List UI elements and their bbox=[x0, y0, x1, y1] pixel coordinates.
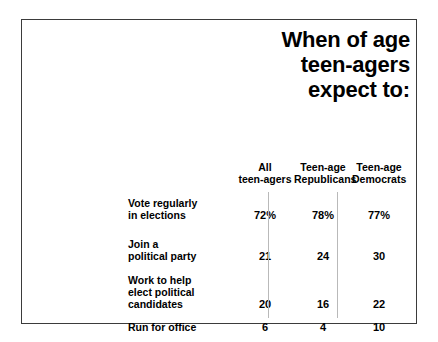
page-title: When of age teen-agers expect to: bbox=[198, 28, 410, 103]
row-value-teenage-republicans: 16 bbox=[294, 264, 352, 312]
column-header-teenage-democrats: Teen-age Democrats bbox=[352, 161, 406, 185]
row-value-teenage-republicans: 24 bbox=[294, 223, 352, 264]
row-value-teenage-democrats: 22 bbox=[352, 264, 406, 312]
row-value-teenage-democrats: 10 bbox=[352, 312, 406, 335]
row-label: Run for office bbox=[124, 312, 236, 335]
row-value-all-teenagers: 6 bbox=[236, 312, 294, 335]
row-value-teenage-democrats: 30 bbox=[352, 223, 406, 264]
column-divider-1 bbox=[268, 192, 269, 318]
table-row: Vote regularly in elections 72% 78% 77% bbox=[124, 185, 406, 223]
table-row: Run for office 6 4 10 bbox=[124, 312, 406, 335]
row-label: Join a political party bbox=[124, 223, 236, 264]
row-value-all-teenagers: 72% bbox=[236, 185, 294, 223]
row-label: Vote regularly in elections bbox=[124, 185, 236, 223]
infographic: When of age teen-agers expect to: All te… bbox=[0, 0, 438, 342]
table-header-row: All teen-agers Teen-age Republicans Teen… bbox=[124, 161, 406, 185]
table-header: All teen-agers Teen-age Republicans Teen… bbox=[124, 161, 406, 185]
row-value-all-teenagers: 21 bbox=[236, 223, 294, 264]
table-row: Work to help elect political candidates … bbox=[124, 264, 406, 312]
column-divider-2 bbox=[337, 192, 338, 318]
column-header-all-teenagers: All teen-agers bbox=[236, 161, 294, 185]
table-body: Vote regularly in elections 72% 78% 77% … bbox=[124, 185, 406, 335]
row-label: Work to help elect political candidates bbox=[124, 264, 236, 312]
column-header-teenage-republicans: Teen-age Republicans bbox=[294, 161, 352, 185]
row-value-all-teenagers: 20 bbox=[236, 264, 294, 312]
row-value-teenage-democrats: 77% bbox=[352, 185, 406, 223]
row-value-teenage-republicans: 4 bbox=[294, 312, 352, 335]
statistics-table: All teen-agers Teen-age Republicans Teen… bbox=[124, 161, 406, 335]
column-header-label bbox=[124, 161, 236, 185]
table-row: Join a political party 21 24 30 bbox=[124, 223, 406, 264]
statistics-table-container: All teen-agers Teen-age Republicans Teen… bbox=[124, 161, 406, 320]
row-value-teenage-republicans: 78% bbox=[294, 185, 352, 223]
